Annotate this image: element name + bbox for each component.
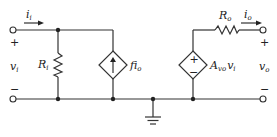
output-minus: − <box>260 83 269 96</box>
dependent-current-source <box>99 51 127 79</box>
input-current-arrow <box>24 21 44 26</box>
junction-dots <box>56 28 195 101</box>
dependent-voltage-source: + − <box>179 51 207 79</box>
output-voltage-label: vo <box>259 60 269 74</box>
output-current-label: io <box>244 8 252 22</box>
input-voltage-label: vi <box>10 60 18 74</box>
output-resistor-label: Ro <box>218 9 232 23</box>
input-minus: − <box>10 83 19 96</box>
input-terminal-bottom <box>10 96 16 102</box>
current-source-label: fio <box>129 59 142 73</box>
output-terminal-top <box>260 27 266 33</box>
output-plus: + <box>260 36 269 49</box>
vsource-minus: − <box>189 66 198 79</box>
input-resistor <box>54 53 62 77</box>
input-current-label: ii <box>26 8 32 22</box>
arrow-up-icon <box>110 57 116 62</box>
vsource-plus: + <box>190 53 199 66</box>
output-terminal-bottom <box>260 96 266 102</box>
voltage-source-label: Avovi <box>209 59 236 73</box>
output-resistor <box>215 26 239 34</box>
amplifier-circuit-diagram: + − ii io + vi − + vo − Ri Ro fio Avovi <box>0 0 277 137</box>
input-resistor-label: Ri <box>37 58 49 72</box>
input-plus: + <box>10 36 19 49</box>
ground-icon <box>145 117 161 124</box>
input-terminal-top <box>10 27 16 33</box>
wires <box>16 30 260 117</box>
